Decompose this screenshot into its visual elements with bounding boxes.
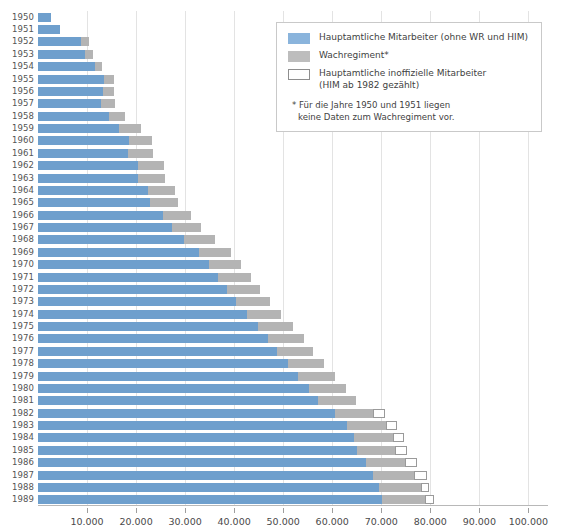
bar-row (38, 372, 548, 381)
legend-item: Wachregiment* (288, 50, 531, 62)
bar-segment (357, 446, 396, 455)
bar-segment (386, 421, 398, 430)
legend-swatch-blue (288, 33, 310, 44)
bar-segment (247, 310, 281, 319)
y-axis-label-1965: 1965 (12, 198, 34, 207)
bar-segment (38, 112, 109, 121)
bar-segment (38, 310, 247, 319)
bar-row (38, 334, 548, 343)
y-axis-label-1960: 1960 (12, 136, 34, 145)
bar-segment (38, 87, 103, 96)
bar-segment (236, 297, 270, 306)
y-axis-label-1954: 1954 (12, 62, 34, 71)
bar-segment (38, 75, 104, 84)
y-axis-label-1985: 1985 (12, 446, 34, 455)
y-axis-label-1957: 1957 (12, 99, 34, 108)
bar-row (38, 136, 548, 145)
y-axis-label-1951: 1951 (12, 25, 34, 34)
bar-segment (393, 433, 404, 442)
bar-segment (414, 471, 427, 480)
y-axis-label-1989: 1989 (12, 495, 34, 504)
y-axis-label-1988: 1988 (12, 483, 34, 492)
bar-segment (395, 446, 406, 455)
bar-row (38, 273, 548, 282)
bar-segment (318, 396, 356, 405)
bar-segment (38, 186, 148, 195)
y-axis-label-1981: 1981 (12, 396, 34, 405)
bar-segment (104, 75, 114, 84)
x-axis-label-90.000: 90.000 (463, 516, 496, 528)
bar-segment (277, 347, 313, 356)
bar-row (38, 384, 548, 393)
bar-segment (38, 433, 354, 442)
bar-segment (335, 409, 374, 418)
y-axis-label-1980: 1980 (12, 384, 34, 393)
bar-segment (379, 483, 421, 492)
y-axis-label-1972: 1972 (12, 285, 34, 294)
y-axis-labels: 1950195119521953195419551956195719581959… (0, 11, 38, 506)
bar-segment (101, 99, 115, 108)
bar-segment (258, 322, 293, 331)
bar-row (38, 13, 548, 22)
bar-segment (38, 483, 379, 492)
x-axis-label-30.000: 30.000 (168, 516, 201, 528)
bar-segment (288, 359, 324, 368)
x-axis-tick (332, 508, 333, 513)
bar-segment (129, 136, 152, 145)
y-axis-label-1969: 1969 (12, 248, 34, 257)
bar-segment (38, 149, 128, 158)
bar-segment (421, 483, 429, 492)
y-axis-label-1984: 1984 (12, 433, 34, 442)
y-axis-label-1961: 1961 (12, 149, 34, 158)
bar-segment (425, 495, 433, 504)
bar-segment (38, 62, 95, 71)
y-axis-label-1968: 1968 (12, 235, 34, 244)
bar-row (38, 186, 548, 195)
bar-segment (95, 62, 102, 71)
bar-segment (38, 285, 227, 294)
x-axis-tick (479, 508, 480, 513)
bar-row (38, 421, 548, 430)
bar-segment (148, 186, 175, 195)
x-axis-tick (430, 508, 431, 513)
y-axis-label-1955: 1955 (12, 75, 34, 84)
y-axis-label-1986: 1986 (12, 458, 34, 467)
bar-row (38, 174, 548, 183)
bar-segment (38, 50, 85, 59)
bar-segment (119, 124, 141, 133)
bar-segment (38, 446, 357, 455)
bar-row (38, 161, 548, 170)
legend-swatch-gray (288, 51, 310, 62)
bar-row (38, 248, 548, 257)
x-axis-tick (185, 508, 186, 513)
y-axis-label-1974: 1974 (12, 310, 34, 319)
bar-segment (38, 322, 258, 331)
x-axis-line (38, 505, 548, 506)
x-axis-label-100.000: 100.000 (509, 516, 548, 528)
bar-segment (38, 99, 101, 108)
y-axis-label-1958: 1958 (12, 112, 34, 121)
bar-segment (38, 471, 373, 480)
bar-row (38, 446, 548, 455)
bar-segment (268, 334, 303, 343)
x-axis-label-40.000: 40.000 (218, 516, 251, 528)
y-axis-label-1950: 1950 (12, 13, 34, 22)
y-axis-label-1970: 1970 (12, 260, 34, 269)
bar-segment (138, 174, 165, 183)
x-axis-tick (136, 508, 137, 513)
bar-row (38, 149, 548, 158)
x-axis-label-50.000: 50.000 (267, 516, 300, 528)
bar-segment (38, 136, 129, 145)
x-axis-label-70.000: 70.000 (365, 516, 398, 528)
bar-segment (38, 25, 60, 34)
bar-segment (172, 223, 201, 232)
y-axis-label-1977: 1977 (12, 347, 34, 356)
bar-segment (38, 409, 335, 418)
y-axis-label-1967: 1967 (12, 223, 34, 232)
bar-row (38, 396, 548, 405)
bar-segment (38, 223, 172, 232)
bar-segment (81, 37, 89, 46)
bar-row (38, 322, 548, 331)
x-axis-labels: 10.00020.00030.00040.00050.00060.00070.0… (0, 508, 562, 532)
y-axis-label-1956: 1956 (12, 87, 34, 96)
